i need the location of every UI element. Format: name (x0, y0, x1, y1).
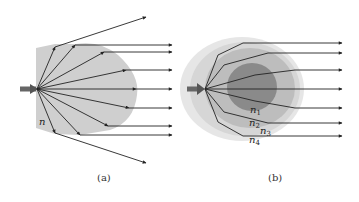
panel-b: n1 n2 n3 n4 (180, 37, 342, 147)
caption-a: (a) (97, 172, 111, 183)
label-n-a: n (39, 116, 45, 127)
figure-diagram: n (0, 0, 359, 202)
caption-b: (b) (268, 172, 282, 183)
panel-a: n (20, 17, 172, 163)
